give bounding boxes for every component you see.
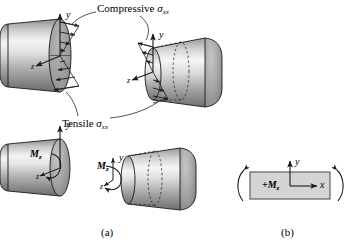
sigma-subscript: xx (102, 123, 108, 131)
moment-label-bottom-middle: Mz (97, 160, 109, 173)
axis-label-y: y (66, 119, 70, 130)
leader-compressive (72, 12, 148, 40)
moment-label-bottom-left: Mz (30, 148, 42, 161)
axis-label-z: z (127, 76, 130, 85)
leader-tensile (66, 92, 158, 118)
cylinder-bottom-right (121, 148, 196, 210)
axis-label-y: y (159, 29, 163, 40)
axis-label-y: y (66, 9, 70, 20)
panel-b-label: (b) (281, 226, 294, 238)
sigma-subscript: xx (163, 8, 169, 16)
panel-b-beam (238, 161, 343, 201)
bending-stress-figure (0, 0, 358, 245)
moment-label-panel-b: +Mz (262, 179, 279, 192)
panel-a-label: (a) (101, 226, 113, 238)
axis-label-x: x (320, 179, 324, 190)
label-compressive: Compressive σxx (97, 2, 169, 16)
axis-label-z: z (31, 62, 34, 71)
axis-label-z: z (100, 182, 103, 191)
axis-label-z: z (36, 172, 39, 181)
axis-label-y: y (295, 156, 299, 167)
axis-label-y: y (119, 152, 123, 163)
